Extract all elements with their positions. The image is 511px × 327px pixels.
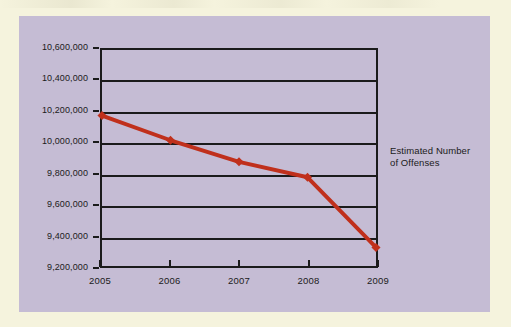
line-series-svg xyxy=(102,50,376,266)
y-axis-tick xyxy=(93,47,99,49)
y-axis-label: 9,400,000 xyxy=(19,231,88,241)
y-axis-tick xyxy=(93,204,99,206)
x-axis-label: 2008 xyxy=(298,275,320,286)
y-axis-label: 9,800,000 xyxy=(19,168,88,178)
x-axis-tick xyxy=(308,260,310,267)
y-axis-label: 10,000,000 xyxy=(19,136,88,146)
series-line-estimated-offenses xyxy=(102,116,376,248)
y-axis-tick xyxy=(93,173,99,175)
series-markers-group xyxy=(97,111,380,252)
y-axis-tick xyxy=(93,141,99,143)
x-axis-label: 2007 xyxy=(228,275,250,286)
y-axis-label: 10,600,000 xyxy=(19,42,88,52)
y-axis-label: 10,400,000 xyxy=(19,73,88,83)
x-axis-label: 2005 xyxy=(89,275,111,286)
series-label: Estimated Number of Offenses xyxy=(390,145,486,169)
plot-area xyxy=(100,48,378,268)
scan-artifact-strip xyxy=(0,0,511,8)
y-axis-label: 10,200,000 xyxy=(19,105,88,115)
y-axis-tick xyxy=(93,236,99,238)
y-axis-tick xyxy=(93,110,99,112)
y-axis-label: 9,200,000 xyxy=(19,262,88,272)
series-label-line2: of Offenses xyxy=(390,157,486,169)
x-axis-label: 2006 xyxy=(159,275,181,286)
y-axis-label: 9,600,000 xyxy=(19,199,88,209)
y-axis-tick xyxy=(93,78,99,80)
x-axis-label: 2009 xyxy=(367,275,389,286)
series-label-line1: Estimated Number xyxy=(390,145,486,157)
chart-panel: 10,600,00010,400,00010,200,00010,000,000… xyxy=(19,16,490,312)
x-axis-tick xyxy=(238,260,240,267)
x-axis-tick xyxy=(99,260,101,267)
data-point-marker xyxy=(234,157,243,166)
x-axis-tick xyxy=(377,260,379,267)
y-axis-tick xyxy=(93,267,99,269)
x-axis-tick xyxy=(169,260,171,267)
